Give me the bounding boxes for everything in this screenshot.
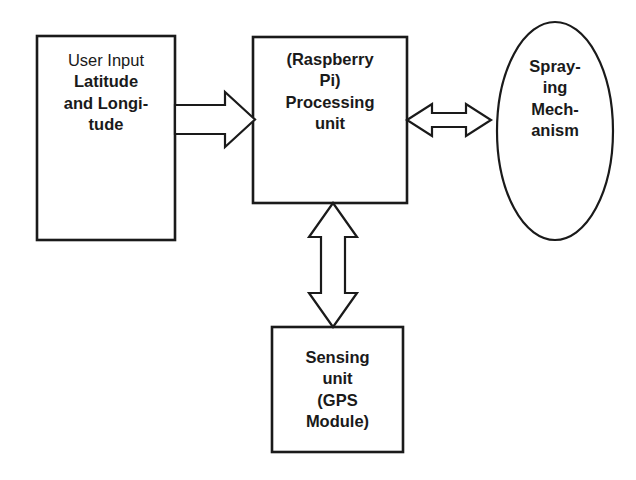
- diagram-canvas: User Input Latitude and Longi- tude (Ras…: [0, 0, 636, 480]
- node-shape-processing-unit[interactable]: [253, 37, 407, 203]
- node-shape-user-input[interactable]: [37, 36, 175, 240]
- connector-processing-to-sensing[interactable]: [309, 203, 357, 327]
- node-shape-sensing-unit[interactable]: [272, 327, 403, 452]
- connector-user-input-to-processing[interactable]: [175, 92, 255, 147]
- diagram-shapes: [0, 0, 636, 480]
- connector-processing-to-spraying[interactable]: [407, 104, 491, 136]
- node-shape-spraying-mechanism[interactable]: [497, 22, 613, 240]
